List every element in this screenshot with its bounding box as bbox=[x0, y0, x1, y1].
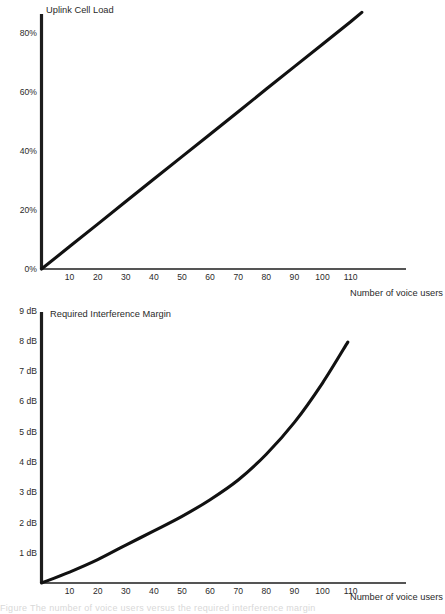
x-tick-label: 40 bbox=[149, 272, 159, 282]
x-tick-label: 10 bbox=[65, 586, 75, 596]
x-tick-label: 10 bbox=[65, 272, 75, 282]
y-tick-label: 7 dB bbox=[19, 366, 37, 376]
x-tick-label: 60 bbox=[205, 272, 215, 282]
x-tick-label: 60 bbox=[205, 586, 215, 596]
series-line-uplink-cell-load bbox=[42, 12, 362, 269]
x-axis-title: Number of voice users bbox=[350, 592, 443, 600]
y-tick-label: 40% bbox=[20, 146, 38, 156]
required-interference-margin-chart: 1 dB2 dB3 dB4 dB5 dB6 dB7 dB8 dB9 dB 102… bbox=[0, 300, 445, 600]
x-tick-label: 70 bbox=[233, 586, 243, 596]
chart-panel-uplink-cell-load: 0%20%40%60%80% 102030405060708090100110 … bbox=[0, 0, 445, 300]
y-tick-labels: 0%20%40%60%80% bbox=[20, 28, 38, 274]
x-tick-labels: 102030405060708090100110 bbox=[65, 272, 358, 282]
x-tick-label: 110 bbox=[344, 272, 358, 282]
y-tick-label: 4 dB bbox=[19, 457, 37, 467]
x-tick-labels: 102030405060708090100110 bbox=[65, 586, 358, 596]
page-caption-sliver: Figure The number of voice users versus … bbox=[0, 602, 445, 614]
x-tick-label: 20 bbox=[93, 586, 103, 596]
x-tick-label: 30 bbox=[121, 586, 131, 596]
x-tick-label: 100 bbox=[315, 586, 330, 596]
y-tick-label: 80% bbox=[20, 28, 38, 38]
x-tick-label: 80 bbox=[262, 272, 272, 282]
y-tick-label: 2 dB bbox=[19, 518, 37, 528]
x-tick-label: 90 bbox=[290, 586, 300, 596]
x-tick-label: 20 bbox=[93, 272, 103, 282]
x-tick-label: 50 bbox=[177, 272, 187, 282]
x-tick-label: 50 bbox=[177, 586, 187, 596]
uplink-cell-load-chart: 0%20%40%60%80% 102030405060708090100110 … bbox=[0, 0, 445, 300]
chart-panel-required-interference-margin: 1 dB2 dB3 dB4 dB5 dB6 dB7 dB8 dB9 dB 102… bbox=[0, 300, 445, 600]
y-tick-label: 5 dB bbox=[19, 427, 37, 437]
y-tick-label: 1 dB bbox=[19, 548, 37, 558]
y-tick-label: 20% bbox=[20, 205, 38, 215]
chart-title: Uplink Cell Load bbox=[46, 5, 114, 15]
x-axis-title: Number of voice users bbox=[350, 288, 443, 298]
x-tick-label: 30 bbox=[121, 272, 131, 282]
series-line-required-interference-margin bbox=[42, 342, 348, 583]
x-tick-label: 70 bbox=[233, 272, 243, 282]
plot-axes bbox=[42, 14, 407, 269]
figure-page: 0%20%40%60%80% 102030405060708090100110 … bbox=[0, 0, 445, 614]
y-tick-label: 3 dB bbox=[19, 487, 37, 497]
y-tick-label: 9 dB bbox=[19, 306, 37, 316]
plot-axes bbox=[42, 312, 407, 583]
y-tick-label: 0% bbox=[25, 264, 38, 274]
y-tick-label: 8 dB bbox=[19, 336, 37, 346]
x-tick-label: 40 bbox=[149, 586, 159, 596]
x-tick-label: 100 bbox=[315, 272, 330, 282]
x-tick-label: 80 bbox=[262, 586, 272, 596]
x-tick-label: 90 bbox=[290, 272, 300, 282]
chart-title: Required Interference Margin bbox=[50, 309, 171, 319]
y-tick-label: 6 dB bbox=[19, 396, 37, 406]
y-tick-labels: 1 dB2 dB3 dB4 dB5 dB6 dB7 dB8 dB9 dB bbox=[19, 306, 37, 558]
y-tick-label: 60% bbox=[20, 87, 38, 97]
